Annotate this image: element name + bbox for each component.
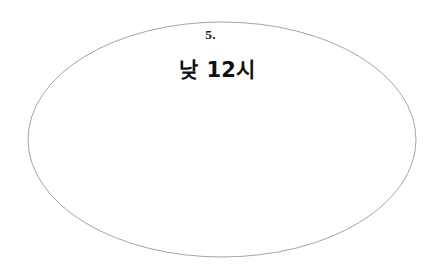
item-number-label: 5. xyxy=(0,27,429,42)
slide-canvas: 5. 낮 12시 xyxy=(0,0,437,277)
main-time-label: 낮 12시 xyxy=(0,57,436,83)
text-layer: 5. 낮 12시 xyxy=(0,0,437,277)
